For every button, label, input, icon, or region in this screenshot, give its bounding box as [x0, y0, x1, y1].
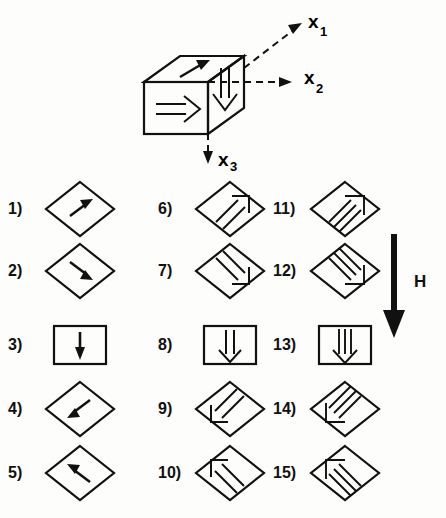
arrow-triple-down-right: [329, 248, 364, 284]
arrow-single-down-left: [67, 400, 90, 418]
arrow-triple-down-left: [326, 386, 361, 422]
state-symbol-diamond: [307, 240, 383, 302]
state-symbol-rectangle: [42, 314, 118, 376]
state-number: 14): [273, 400, 296, 418]
state-symbol-diamond: [307, 442, 383, 504]
state-number: 12): [273, 262, 296, 280]
state-cell-6[interactable]: 6): [150, 178, 270, 240]
state-cell-11[interactable]: 11): [265, 178, 385, 240]
state-number: 15): [273, 464, 296, 482]
arrow-single-down: [75, 332, 85, 360]
arrow-triple-up-left: [326, 460, 361, 496]
domain-state-grid: 1) 2): [0, 178, 400, 510]
field-label-h: H: [414, 272, 426, 292]
axis-x3: [203, 134, 213, 164]
state-symbol-diamond: [42, 240, 118, 302]
state-cell-15[interactable]: 15): [265, 442, 385, 504]
state-symbol-rectangle: [192, 314, 268, 376]
axis-label-x2: x: [304, 67, 315, 88]
state-number: 11): [273, 200, 295, 218]
state-number: 1): [8, 200, 22, 218]
state-cell-7[interactable]: 7): [150, 240, 270, 302]
state-cell-4[interactable]: 4): [0, 378, 120, 440]
axis-label-x3: x: [218, 149, 229, 170]
axis-label-x1: x: [308, 11, 319, 32]
state-number: 10): [158, 464, 181, 482]
arrow-single-up-left: [67, 464, 90, 482]
axis-sub-x1: 1: [320, 24, 327, 39]
state-symbol-diamond: [42, 378, 118, 440]
state-number: 2): [8, 262, 22, 280]
cube-left-face-arrow: [156, 96, 200, 122]
state-number: 3): [8, 336, 22, 354]
state-number: 13): [273, 336, 296, 354]
axis-x1: [244, 23, 302, 68]
arrow-single-down-right: [70, 262, 93, 280]
state-number: 7): [158, 262, 172, 280]
figure-canvas: x 1 x 2 x 3 1) 2): [0, 0, 446, 518]
state-symbol-diamond: [192, 378, 268, 440]
state-cell-14[interactable]: 14): [265, 378, 385, 440]
state-number: 5): [8, 464, 22, 482]
arrow-double-down: [219, 330, 241, 362]
arrow-single-up-right: [70, 199, 93, 216]
state-symbol-rectangle: [307, 314, 383, 376]
state-cell-8[interactable]: 8): [150, 314, 270, 376]
state-number: 6): [158, 200, 172, 218]
state-cell-5[interactable]: 5): [0, 442, 120, 504]
cube-right-face-arrow: [213, 68, 237, 110]
axis-sub-x2: 2: [316, 81, 323, 96]
state-cell-13[interactable]: 13): [265, 314, 385, 376]
state-number: 8): [158, 336, 172, 354]
state-cell-12[interactable]: 12): [265, 240, 385, 302]
state-number: 4): [8, 400, 22, 418]
state-cell-1[interactable]: 1): [0, 178, 120, 240]
state-number: 9): [158, 400, 172, 418]
cube-top-face-arrow: [180, 60, 210, 77]
state-symbol-diamond: [192, 442, 268, 504]
magnetic-domain-cube: x 1 x 2 x 3: [128, 6, 328, 171]
state-cell-3[interactable]: 3): [0, 314, 120, 376]
state-cell-10[interactable]: 10): [150, 442, 270, 504]
state-symbol-diamond: [307, 178, 383, 240]
axis-sub-x3: 3: [230, 159, 237, 171]
state-symbol-diamond: [307, 378, 383, 440]
field-arrow-icon: [383, 234, 405, 338]
state-cell-9[interactable]: 9): [150, 378, 270, 440]
state-symbol-diamond: [42, 442, 118, 504]
arrow-triple-down: [333, 329, 357, 363]
state-symbol-diamond: [192, 178, 268, 240]
applied-field-indicator: H: [378, 232, 442, 342]
state-cell-2[interactable]: 2): [0, 240, 120, 302]
arrow-triple-up-right: [329, 196, 364, 232]
state-symbol-diamond: [192, 240, 268, 302]
state-symbol-diamond: [42, 178, 118, 240]
